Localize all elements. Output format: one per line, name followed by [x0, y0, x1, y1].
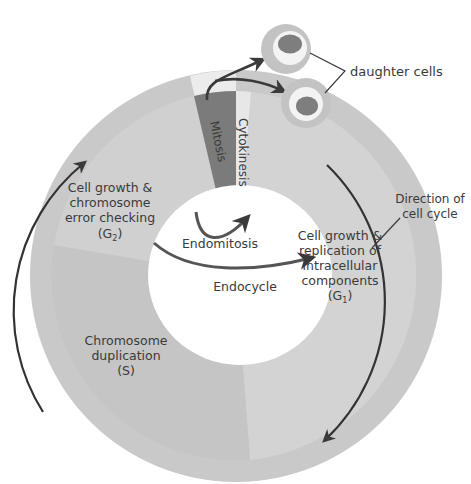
- endocycle-label: Endocycle: [213, 279, 277, 294]
- svg-text:intracellular: intracellular: [303, 258, 379, 273]
- svg-text:(S): (S): [117, 363, 135, 378]
- svg-text:chromosome: chromosome: [69, 195, 150, 210]
- svg-text:(G1): (G1): [328, 288, 353, 305]
- svg-text:components: components: [301, 273, 378, 288]
- daughter-cells-label: daughter cells: [350, 64, 443, 79]
- svg-text:replication of: replication of: [299, 243, 382, 258]
- daughter-cell-top: [261, 24, 311, 74]
- svg-text:(G2): (G2): [98, 226, 123, 243]
- svg-text:duplication: duplication: [91, 348, 160, 363]
- endomitosis-label: Endomitosis: [182, 236, 258, 251]
- svg-text:Chromosome: Chromosome: [84, 333, 167, 348]
- svg-text:error checking: error checking: [65, 210, 155, 225]
- cell-cycle-diagram: daughter cells Direction of cell cycle M…: [0, 0, 471, 484]
- svg-text:Cell growth &: Cell growth &: [298, 228, 383, 243]
- direction-label-line2: cell cycle: [402, 207, 457, 221]
- svg-text:Cell growth &: Cell growth &: [68, 180, 153, 195]
- daughter-cell-bottom: [281, 78, 331, 128]
- direction-label-line1: Direction of: [395, 192, 465, 206]
- cytokinesis-label: Cytokinesis: [236, 118, 250, 187]
